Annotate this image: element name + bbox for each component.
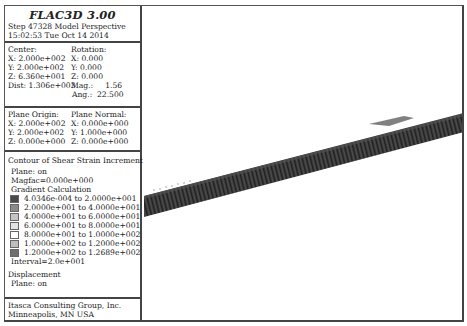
rotation-y: Y: 0.000 bbox=[71, 63, 124, 72]
displacement-title: Displacement bbox=[5, 270, 140, 279]
flac3d-plot-frame: FLAC3D 3.00 Step 47328 Model Perspective… bbox=[4, 5, 464, 322]
center-z: Z: 6.360e+001 bbox=[5, 72, 71, 81]
legend-range-label: 2.0000e+001 to 4.0000e+001 bbox=[24, 203, 140, 212]
contour-plane: Plane: on bbox=[5, 167, 140, 176]
plane-normal-x: X: 0.000e+000 bbox=[71, 119, 128, 128]
legend-range-label: 1.2000e+002 to 1.2689e+002 bbox=[24, 248, 140, 257]
company-name: Itasca Consulting Group, Inc. bbox=[5, 301, 140, 310]
step-line: Step 47328 Model Perspective bbox=[5, 22, 140, 31]
divider bbox=[5, 150, 140, 152]
plane-origin-y: Y: 2.000e+002 bbox=[5, 128, 71, 137]
magfac-value: Magfac=0.000e+000 bbox=[5, 176, 140, 185]
legend-panel: FLAC3D 3.00 Step 47328 Model Perspective… bbox=[5, 6, 142, 320]
model-mesh bbox=[144, 6, 462, 320]
legend-swatch bbox=[10, 195, 19, 203]
header-section: FLAC3D 3.00 Step 47328 Model Perspective… bbox=[5, 6, 140, 40]
dist-value: Dist: 1.306e+003 bbox=[5, 81, 71, 90]
footer-section: Itasca Consulting Group, Inc. Minneapoli… bbox=[5, 301, 140, 319]
legend-range-label: 1.0000e+002 to 1.2000e+002 bbox=[24, 239, 140, 248]
gradient-label: Gradient Calculation bbox=[5, 185, 140, 194]
legend-ranges: 4.0346e-004 to 2.0000e+001 2.0000e+001 t… bbox=[5, 194, 140, 257]
legend-swatch bbox=[10, 222, 19, 230]
legend-range-label: 4.0000e+001 to 6.0000e+001 bbox=[24, 212, 140, 221]
legend-range-label: 4.0346e-004 to 2.0000e+001 bbox=[24, 194, 137, 203]
rotation-label: Rotation: bbox=[71, 45, 124, 54]
legend-swatch bbox=[10, 213, 19, 221]
timestamp: 15:02:53 Tue Oct 14 2014 bbox=[5, 31, 140, 40]
legend-range-label: 8.0000e+001 to 1.0000e+002 bbox=[24, 230, 140, 239]
center-label: Center: bbox=[5, 45, 71, 54]
center-x: X: 2.000e+002 bbox=[5, 54, 71, 63]
company-location: Minneapolis, MN USA bbox=[5, 310, 140, 319]
legend-row: 4.0346e-004 to 2.0000e+001 bbox=[5, 194, 140, 203]
divider bbox=[5, 106, 140, 108]
legend-swatch bbox=[10, 231, 19, 239]
plane-normal-label: Plane Normal: bbox=[71, 110, 128, 119]
mag-value: Mag.: 1.56 bbox=[71, 81, 124, 90]
interval-value: Interval=2.0e+001 bbox=[5, 257, 140, 266]
ang-value: Ang.: 22.500 bbox=[71, 90, 124, 99]
legend-row: 1.0000e+002 to 1.2000e+002 bbox=[5, 239, 140, 248]
legend-row: 1.2000e+002 to 1.2689e+002 bbox=[5, 248, 140, 257]
legend-row: 8.0000e+001 to 1.0000e+002 bbox=[5, 230, 140, 239]
divider bbox=[5, 41, 140, 43]
divider bbox=[5, 297, 140, 299]
plane-normal-y: Y: 1.000e+000 bbox=[71, 128, 128, 137]
contour-legend-section: Contour of Shear Strain Increment Plane:… bbox=[5, 156, 140, 288]
legend-range-label: 6.0000e+001 to 8.0000e+001 bbox=[24, 221, 140, 230]
legend-row: 4.0000e+001 to 6.0000e+001 bbox=[5, 212, 140, 221]
model-viewport[interactable] bbox=[144, 6, 462, 320]
rotation-x: X: 0.000 bbox=[71, 54, 124, 63]
plane-section: Plane Origin: X: 2.000e+002 Y: 2.000e+00… bbox=[5, 110, 140, 146]
legend-swatch bbox=[10, 240, 19, 248]
app-title: FLAC3D 3.00 bbox=[5, 8, 140, 22]
center-y: Y: 2.000e+002 bbox=[5, 63, 71, 72]
legend-swatch bbox=[10, 204, 19, 212]
view-params-section: Center: X: 2.000e+002 Y: 2.000e+002 Z: 6… bbox=[5, 45, 140, 99]
plane-origin-label: Plane Origin: bbox=[5, 110, 71, 119]
displacement-plane: Plane: on bbox=[5, 279, 140, 288]
legend-swatch bbox=[10, 249, 19, 257]
rotation-z: Z: 0.000 bbox=[71, 72, 124, 81]
plane-origin-z: Z: 0.000e+000 bbox=[5, 137, 71, 146]
plane-origin-x: X: 2.000e+002 bbox=[5, 119, 71, 128]
contour-title: Contour of Shear Strain Increment bbox=[5, 156, 140, 165]
legend-row: 2.0000e+001 to 4.0000e+001 bbox=[5, 203, 140, 212]
plane-normal-z: Z: 0.000e+000 bbox=[71, 137, 128, 146]
legend-row: 6.0000e+001 to 8.0000e+001 bbox=[5, 221, 140, 230]
